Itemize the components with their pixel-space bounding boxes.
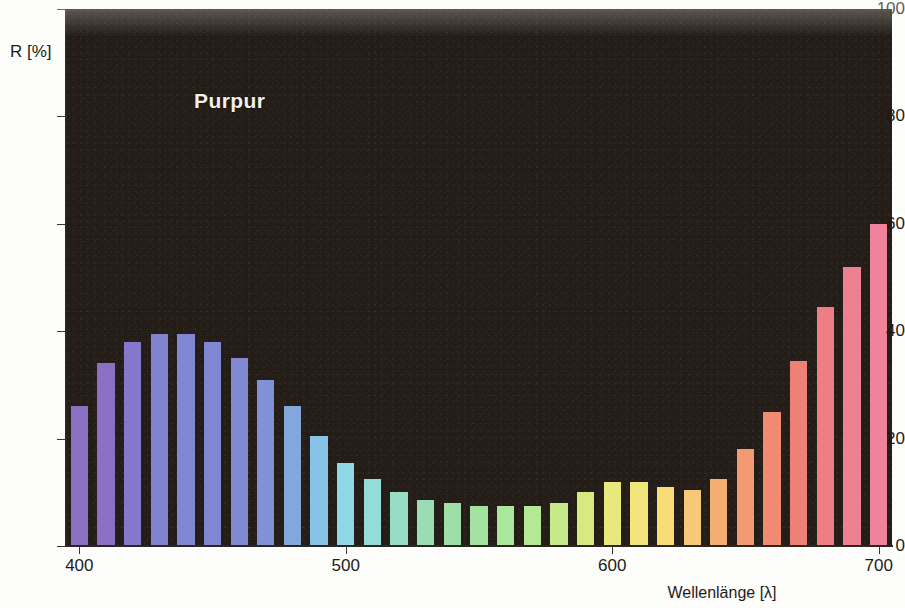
bar	[763, 412, 780, 546]
y-axis-tick	[57, 116, 65, 117]
bar	[177, 334, 194, 546]
bar	[97, 363, 114, 546]
x-axis-tick-label: 700	[864, 556, 892, 576]
y-axis-tick	[57, 9, 65, 10]
x-axis-tick	[79, 546, 80, 554]
x-axis-line	[65, 545, 893, 547]
bar	[870, 224, 887, 546]
bar	[790, 361, 807, 546]
x-axis-tick-label: 600	[598, 556, 626, 576]
bar	[444, 503, 461, 546]
bar	[843, 267, 860, 546]
chart-title: Purpur	[194, 89, 265, 113]
bar	[470, 506, 487, 546]
bar	[657, 487, 674, 546]
bar	[550, 503, 567, 546]
bar	[124, 342, 141, 546]
bar	[71, 406, 88, 546]
spectral-reflectance-chart: Purpur 020406080100 400500600700 R [%] W…	[0, 0, 905, 608]
bar	[817, 307, 834, 546]
bar	[417, 500, 434, 546]
bar	[257, 380, 274, 546]
bar	[604, 482, 621, 546]
bar	[284, 406, 301, 546]
y-axis-tick	[57, 331, 65, 332]
bar	[577, 492, 594, 546]
y-axis-title: R [%]	[10, 42, 52, 62]
bar	[497, 506, 514, 546]
bar	[684, 490, 701, 546]
bar	[737, 449, 754, 546]
y-axis-tick-label: 100	[855, 0, 905, 19]
bar	[630, 482, 647, 546]
bar	[390, 492, 407, 546]
y-axis-tick	[57, 224, 65, 225]
x-axis-tick	[612, 546, 613, 554]
bar	[204, 342, 221, 546]
bar	[710, 479, 727, 546]
bar	[310, 436, 327, 546]
y-axis-tick	[57, 546, 65, 547]
y-axis-tick-label: 60	[855, 214, 905, 234]
plot-area: Purpur	[66, 9, 892, 546]
bar	[364, 479, 381, 546]
bar	[151, 334, 168, 546]
x-axis-title: Wellenlänge [λ]	[667, 584, 776, 602]
x-axis-tick-label: 400	[65, 556, 93, 576]
y-axis-tick-label: 20	[855, 429, 905, 449]
y-axis-tick	[57, 439, 65, 440]
x-axis-tick	[879, 546, 880, 554]
y-axis-tick-label: 40	[855, 321, 905, 341]
y-axis-tick-label: 0	[855, 536, 905, 556]
bar	[524, 506, 541, 546]
x-axis-tick	[346, 546, 347, 554]
y-axis-tick-label: 80	[855, 106, 905, 126]
bar	[337, 463, 354, 546]
y-axis-line	[65, 9, 67, 547]
x-axis-tick-label: 500	[332, 556, 360, 576]
bar	[231, 358, 248, 546]
